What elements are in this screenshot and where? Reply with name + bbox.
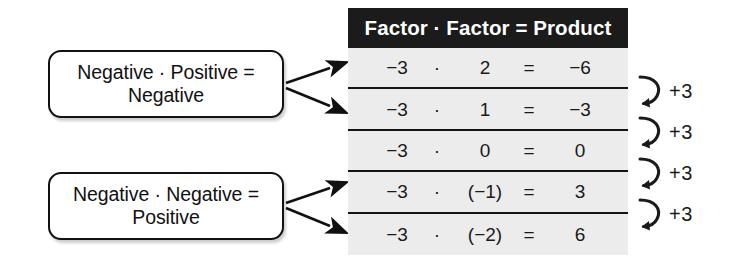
table-row: −3 · 1 = −3 — [348, 89, 628, 130]
callout-1-arrow-lower — [286, 88, 330, 106]
step-label: +3 — [669, 162, 693, 185]
cell-operator: · — [426, 100, 448, 119]
cell-operator: · — [426, 225, 448, 244]
curved-down-arrow-icon — [636, 73, 666, 109]
callout-2-line1: Negative · Negative = — [73, 183, 259, 205]
cell-operator: · — [426, 182, 448, 201]
cell-factor1: −3 — [366, 225, 428, 244]
callout-1-line1: Negative · Positive = — [77, 61, 254, 83]
cell-equals: = — [514, 225, 544, 244]
callout-negative-times-negative: Negative · Negative = Positive — [48, 172, 284, 240]
cell-product: 6 — [544, 225, 616, 244]
step-annotation: +3 — [636, 197, 693, 231]
curved-down-arrow-icon — [636, 196, 666, 232]
cell-operator: · — [426, 141, 448, 160]
cell-product: −3 — [544, 100, 616, 119]
callout-2-text: Negative · Negative = Positive — [67, 183, 265, 229]
cell-factor1: −3 — [366, 141, 428, 160]
callout-1-line2: Negative — [128, 84, 204, 106]
table-row: −3 · (−1) = 3 — [348, 172, 628, 213]
cell-factor2: (−2) — [448, 225, 522, 244]
cell-product: 0 — [544, 141, 616, 160]
callout-2-arrow-upper — [286, 188, 330, 203]
table-row: −3 · (−2) = 6 — [348, 214, 628, 255]
curved-down-arrow-icon — [636, 155, 666, 191]
cell-factor2: 2 — [448, 58, 522, 77]
callout-1-text: Negative · Positive = Negative — [71, 61, 260, 107]
step-label: +3 — [669, 80, 693, 103]
cell-equals: = — [514, 182, 544, 201]
factor-product-table: Factor · Factor = Product −3 · 2 = −6 −3… — [348, 8, 628, 255]
cell-product: 3 — [544, 182, 616, 201]
cell-factor1: −3 — [366, 182, 428, 201]
cell-factor1: −3 — [366, 58, 428, 77]
table-header: Factor · Factor = Product — [348, 8, 628, 48]
cell-product: −6 — [544, 58, 616, 77]
callout-2-arrow-lower — [286, 208, 330, 226]
cell-factor2: 0 — [448, 141, 522, 160]
table-row: −3 · 2 = −6 — [348, 48, 628, 89]
cell-factor1: −3 — [366, 100, 428, 119]
cell-factor2: 1 — [448, 100, 522, 119]
cell-equals: = — [514, 58, 544, 77]
table-row: −3 · 0 = 0 — [348, 131, 628, 172]
step-label: +3 — [669, 121, 693, 144]
table-body: −3 · 2 = −6 −3 · 1 = −3 −3 · 0 = 0 — [348, 48, 628, 255]
callout-negative-times-positive: Negative · Positive = Negative — [48, 50, 284, 118]
step-label: +3 — [669, 203, 693, 226]
step-annotation: +3 — [636, 156, 693, 190]
cell-equals: = — [514, 100, 544, 119]
step-annotation: +3 — [636, 74, 693, 108]
cell-equals: = — [514, 141, 544, 160]
callout-1-arrow-upper — [286, 68, 330, 83]
curved-down-arrow-icon — [636, 114, 666, 150]
figure-canvas: Negative · Positive = Negative Negative … — [0, 0, 743, 263]
callout-2-line2: Positive — [132, 206, 199, 228]
cell-operator: · — [426, 58, 448, 77]
cell-factor2: (−1) — [448, 182, 522, 201]
step-annotation: +3 — [636, 115, 693, 149]
